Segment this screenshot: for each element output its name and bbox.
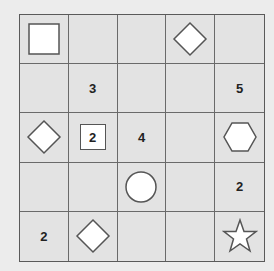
grid-cell-r3-c2[interactable]: 2 <box>69 113 118 162</box>
diamond-icon <box>172 21 208 57</box>
grid-cell-r1-c4[interactable] <box>166 15 215 64</box>
grid-cell-r4-c2[interactable] <box>69 163 118 212</box>
square-icon <box>26 21 62 57</box>
grid-cell-r3-c5[interactable] <box>215 113 264 162</box>
cell-number: 2 <box>236 179 243 194</box>
boxed-number: 2 <box>80 124 106 150</box>
grid-cell-r2-c3[interactable] <box>118 64 167 113</box>
grid-cell-r4-c3[interactable] <box>118 163 167 212</box>
grid-cell-r4-c1[interactable] <box>20 163 69 212</box>
grid-cell-r3-c1[interactable] <box>20 113 69 162</box>
circle-icon <box>123 169 159 205</box>
grid-cell-r1-c5[interactable] <box>215 15 264 64</box>
cell-number: 5 <box>236 81 243 96</box>
grid-cell-r5-c3[interactable] <box>118 212 167 261</box>
cell-number: 2 <box>40 229 47 244</box>
grid-cell-r5-c1[interactable]: 2 <box>20 212 69 261</box>
grid-cell-r3-c3[interactable]: 4 <box>118 113 167 162</box>
grid-cell-r5-c4[interactable] <box>166 212 215 261</box>
cell-number: 3 <box>89 81 96 96</box>
grid-cell-r5-c5[interactable] <box>215 212 264 261</box>
grid-cell-r5-c2[interactable] <box>69 212 118 261</box>
grid-cell-r2-c4[interactable] <box>166 64 215 113</box>
grid-cell-r4-c5[interactable]: 2 <box>215 163 264 212</box>
diamond-icon <box>75 218 111 254</box>
hexagon-icon <box>222 119 258 155</box>
diamond-icon <box>26 119 62 155</box>
grid-cell-r2-c1[interactable] <box>20 64 69 113</box>
grid-cell-r2-c2[interactable]: 3 <box>69 64 118 113</box>
grid-cell-r1-c2[interactable] <box>69 15 118 64</box>
puzzle-grid: 352422 <box>19 14 265 262</box>
cell-number: 2 <box>89 130 96 145</box>
star-icon <box>222 218 258 254</box>
grid-cell-r1-c3[interactable] <box>118 15 167 64</box>
grid-cell-r2-c5[interactable]: 5 <box>215 64 264 113</box>
cell-number: 4 <box>138 130 145 145</box>
grid-cell-r4-c4[interactable] <box>166 163 215 212</box>
grid-cell-r3-c4[interactable] <box>166 113 215 162</box>
grid-cell-r1-c1[interactable] <box>20 15 69 64</box>
